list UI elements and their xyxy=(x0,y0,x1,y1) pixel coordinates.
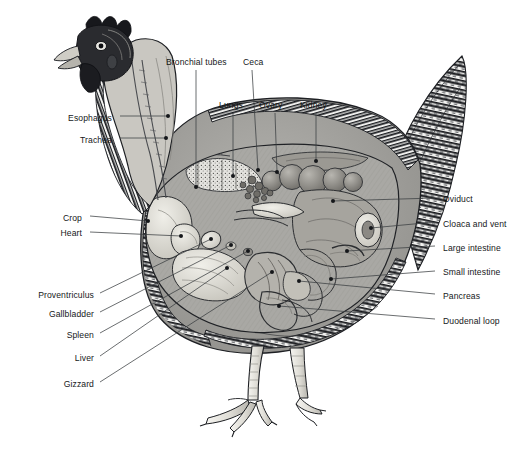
leader-dot-duodenal-loop xyxy=(277,304,281,308)
leader-dot-pancreas xyxy=(297,279,301,283)
leader-dot-spleen xyxy=(246,249,250,253)
leader-dot-liver xyxy=(225,266,229,270)
leader-dot-small-intestine xyxy=(329,277,333,281)
leader-line-cloaca-and-vent xyxy=(371,222,435,228)
leader-dot-proventriculus xyxy=(209,237,213,241)
leader-line-duodenal-loop xyxy=(279,306,435,319)
label-oviduct: Oviduct xyxy=(443,195,473,204)
label-pancreas: Pancreas xyxy=(443,292,480,301)
leader-dot-trachea xyxy=(164,136,168,140)
label-gizzard: Gizzard xyxy=(64,380,94,389)
leader-dot-cloaca-and-vent xyxy=(369,226,373,230)
label-lungs: Lungs xyxy=(219,101,243,110)
label-trachea: Trachea xyxy=(80,136,112,145)
label-proventriculus: Proventriculus xyxy=(38,291,94,300)
leader-line-pancreas xyxy=(299,281,435,294)
leader-line-large-intestine xyxy=(347,246,435,251)
leader-line-proventriculus xyxy=(100,239,211,293)
label-duodenal-loop: Duodenal loop xyxy=(443,317,500,326)
leader-dot-large-intestine xyxy=(345,249,349,253)
label-gallbladder: Gallbladder xyxy=(49,310,94,319)
leader-dot-esophagus xyxy=(166,114,170,118)
leader-dot-heart xyxy=(179,234,183,238)
leader-line-heart xyxy=(90,232,181,236)
label-kidney: Kidney xyxy=(300,101,327,110)
leader-dot-ceca xyxy=(256,168,260,172)
label-large-intestine: Large intestine xyxy=(443,244,501,253)
label-spleen: Spleen xyxy=(67,331,94,340)
label-cloaca-and-vent: Cloaca and vent xyxy=(443,220,507,229)
leader-dot-crop xyxy=(146,219,150,223)
leader-line-ceca xyxy=(252,70,258,170)
leader-dot-oviduct xyxy=(331,199,335,203)
leader-line-spleen xyxy=(100,251,248,333)
label-ceca: Ceca xyxy=(243,58,263,67)
label-esophagus: Esophagus xyxy=(68,114,112,123)
label-ovary: Ovary xyxy=(259,101,282,110)
label-liver: Liver xyxy=(75,354,94,363)
leader-line-crop xyxy=(90,216,148,221)
leader-line-small-intestine xyxy=(331,271,435,279)
leader-line-gizzard xyxy=(100,272,272,382)
leader-dot-gizzard xyxy=(270,270,274,274)
leader-dot-kidney xyxy=(314,159,318,163)
label-small-intestine: Small intestine xyxy=(443,268,500,277)
leader-dot-bronchial-tubes xyxy=(194,185,198,189)
leader-line-ovary xyxy=(275,113,277,172)
leader-line-oviduct xyxy=(333,198,435,201)
label-bronchial-tubes: Bronchial tubes xyxy=(166,58,227,67)
leader-dot-gallbladder xyxy=(229,243,233,247)
label-crop: Crop xyxy=(63,214,82,223)
leader-line-liver xyxy=(100,268,227,356)
anatomy-diagram: EsophagusTracheaBronchial tubesCecaLungs… xyxy=(0,0,520,450)
leader-dot-lungs xyxy=(231,174,235,178)
label-heart: Heart xyxy=(60,229,82,238)
leader-dot-ovary xyxy=(275,170,279,174)
